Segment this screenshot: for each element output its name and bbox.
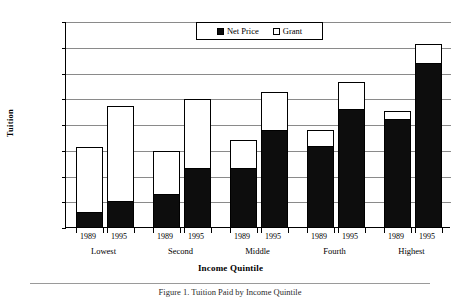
stacked-bar — [384, 111, 411, 228]
figure-caption: Figure 1. Tuition Paid by Income Quintil… — [30, 287, 430, 297]
bar-segment-net-price — [262, 130, 287, 227]
legend-label-grant: Grant — [283, 26, 302, 36]
stacked-bar — [153, 151, 180, 228]
y-tick-mark — [62, 202, 66, 203]
bar-segment-net-price — [154, 194, 179, 227]
x-tick-label-year: 1995 — [97, 232, 141, 241]
y-tick-mark — [62, 125, 66, 126]
stacked-bar — [338, 82, 365, 228]
y-axis-title: Tuition — [5, 88, 15, 158]
stacked-bar — [76, 147, 103, 228]
bar-segment-net-price — [231, 168, 256, 227]
bar-segment-net-price — [108, 201, 133, 227]
net-price-swatch-icon — [217, 28, 224, 35]
y-tick-mark — [62, 228, 66, 229]
grant-swatch-icon — [273, 28, 280, 35]
x-tick-label-year: 1995 — [328, 232, 372, 241]
bar-segment-net-price — [308, 146, 333, 227]
x-tick-label-year: 1995 — [251, 232, 295, 241]
y-tick-mark — [62, 177, 66, 178]
stacked-bar — [261, 92, 288, 228]
gridline — [66, 48, 451, 49]
x-axis-title: Income Quintile — [0, 263, 461, 273]
gridline — [66, 74, 451, 75]
x-group-label: Highest — [366, 246, 458, 256]
caption-divider — [30, 283, 430, 284]
stacked-bar — [415, 44, 442, 228]
gridline — [66, 99, 451, 100]
y-tick-mark — [62, 22, 66, 23]
legend-item-net-price: Net Price — [217, 26, 259, 36]
y-tick-mark — [62, 74, 66, 75]
x-tick-label-year: 1995 — [405, 232, 449, 241]
stacked-bar — [184, 99, 211, 228]
bar-segment-net-price — [385, 119, 410, 227]
chart-legend: Net Price Grant — [196, 22, 323, 40]
stacked-bar — [107, 106, 134, 228]
legend-label-net-price: Net Price — [227, 26, 259, 36]
stacked-bar — [307, 130, 334, 228]
bar-segment-net-price — [77, 212, 102, 227]
y-tick-mark — [62, 151, 66, 152]
bar-segment-net-price — [339, 109, 364, 227]
legend-item-grant: Grant — [273, 26, 302, 36]
stacked-bar — [230, 140, 257, 228]
plot-area — [65, 22, 450, 228]
bar-segment-net-price — [416, 63, 441, 227]
y-tick-mark — [62, 99, 66, 100]
y-tick-mark — [62, 48, 66, 49]
bar-segment-net-price — [185, 168, 210, 227]
x-tick-label-year: 1995 — [174, 232, 218, 241]
